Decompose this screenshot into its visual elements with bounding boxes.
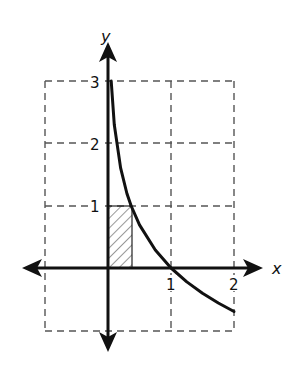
tick-label-y1: 1 [90, 198, 100, 216]
tick-label-y2: 2 [90, 136, 100, 154]
shaded-rectangle [108, 206, 132, 268]
chart-canvas: y x 3 2 1 1 2 [0, 0, 298, 372]
y-axis-label: y [100, 27, 111, 46]
axes [34, 55, 252, 340]
tick-label-y3: 3 [90, 74, 100, 92]
tick-label-x2: 2 [229, 276, 239, 294]
tick-label-x1: 1 [166, 276, 176, 294]
x-axis-label: x [271, 259, 282, 278]
